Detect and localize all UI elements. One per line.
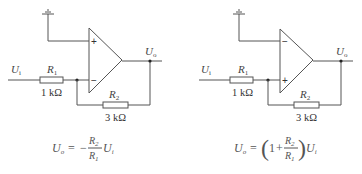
r1-value: 1 kΩ xyxy=(232,87,253,98)
r1-label: R1 xyxy=(237,63,249,77)
svg-text:Ui: Ui xyxy=(103,141,114,156)
resistor-r2 xyxy=(103,102,128,108)
output-label: Uo xyxy=(145,45,157,59)
op-amp-top-input-sign: + xyxy=(91,36,97,47)
svg-text:=: = xyxy=(250,141,257,155)
r2-value: 3 kΩ xyxy=(105,112,126,123)
op-amp-bottom-input-sign: + xyxy=(282,75,288,86)
svg-text:=: = xyxy=(68,141,75,155)
svg-text:(: ( xyxy=(261,135,269,161)
op-amp-top-input-sign: − xyxy=(282,36,288,47)
inverting-gain-formula: Uo = − R2 R1 Ui xyxy=(52,135,114,163)
inverting-amplifier-circuit: + − Ui R1 1 kΩ R2 3 kΩ Uo Uo = − R2 R1 xyxy=(8,10,162,163)
resistor-r1 xyxy=(230,77,253,83)
svg-text:Ui: Ui xyxy=(306,141,317,156)
input-label: Ui xyxy=(11,63,21,77)
r2-value: 3 kΩ xyxy=(296,112,317,123)
svg-text:Uo: Uo xyxy=(234,141,247,156)
non-inverting-amplifier-circuit: − + Ui R1 1 kΩ R2 3 kΩ Uo Uo = ( 1 + R2 xyxy=(199,10,353,163)
svg-text:R1: R1 xyxy=(284,150,295,163)
svg-text:Uo: Uo xyxy=(52,141,65,156)
svg-text:R2: R2 xyxy=(284,135,295,148)
r2-label: R2 xyxy=(299,88,311,102)
output-label: Uo xyxy=(336,45,348,59)
ground-icon xyxy=(233,10,280,41)
r1-label: R1 xyxy=(46,63,58,77)
circuit-diagrams: + − Ui R1 1 kΩ R2 3 kΩ Uo Uo = − R2 R1 xyxy=(0,0,362,174)
svg-text:−: − xyxy=(80,141,87,155)
junction-dot-output xyxy=(148,59,151,62)
non-inverting-gain-formula: Uo = ( 1 + R2 R1 ) Ui xyxy=(234,135,317,163)
r1-value: 1 kΩ xyxy=(41,87,62,98)
resistor-r1 xyxy=(40,77,63,83)
svg-text:R2: R2 xyxy=(88,135,99,148)
input-label: Ui xyxy=(201,63,211,77)
svg-text:+: + xyxy=(276,141,283,155)
svg-text:1: 1 xyxy=(269,141,275,155)
r2-label: R2 xyxy=(108,88,120,102)
resistor-r2 xyxy=(294,102,319,108)
op-amp-bottom-input-sign: − xyxy=(91,75,97,86)
ground-icon xyxy=(42,10,89,41)
junction-dot-output xyxy=(339,59,342,62)
svg-text:): ) xyxy=(298,135,306,161)
svg-text:R1: R1 xyxy=(88,150,99,163)
